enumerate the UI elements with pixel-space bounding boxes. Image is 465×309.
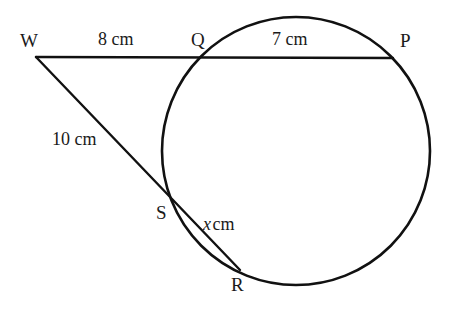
secant-line-wsr	[36, 57, 240, 270]
point-label-p: P	[400, 31, 411, 50]
measure-label-wq: 8 cm	[98, 30, 134, 48]
geometry-diagram: W Q P S R 8 cm 7 cm 10 cm xcm	[0, 0, 465, 309]
geometry-canvas	[0, 0, 465, 309]
variable-x: x	[203, 214, 213, 234]
measure-label-ws: 10 cm	[52, 130, 97, 148]
point-label-r: R	[231, 275, 244, 294]
measure-label-qp: 7 cm	[272, 30, 308, 48]
unit-cm: cm	[213, 214, 235, 234]
secant-line-wqp	[36, 57, 393, 58]
point-label-s: S	[156, 203, 167, 222]
point-label-w: W	[20, 31, 38, 50]
point-label-q: Q	[191, 30, 205, 49]
measure-label-sr: xcm	[203, 215, 235, 233]
